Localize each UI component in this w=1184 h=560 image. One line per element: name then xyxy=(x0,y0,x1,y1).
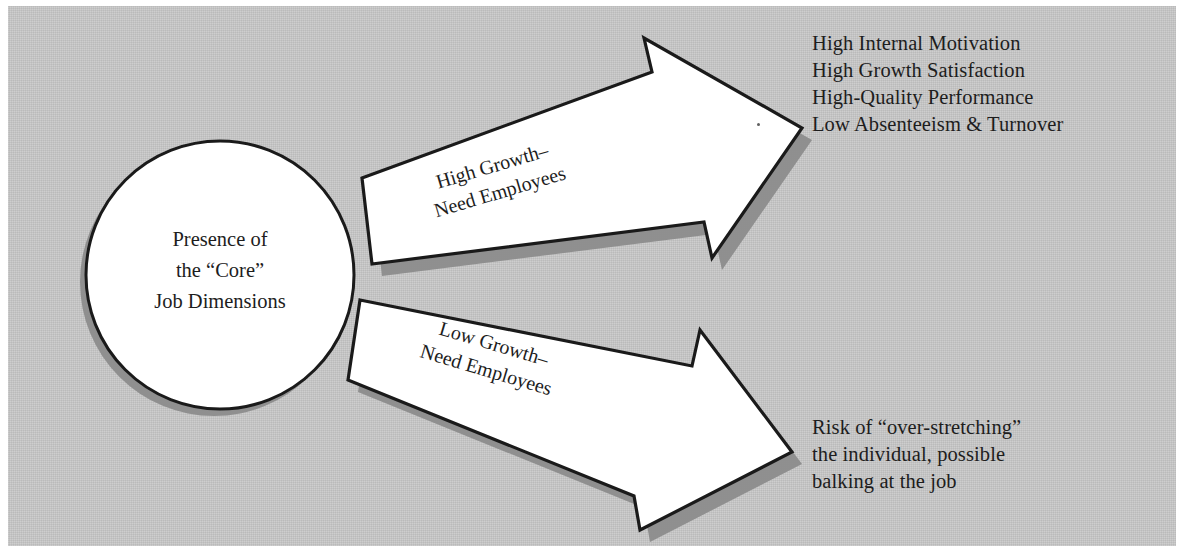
positive-outcomes-list: High Internal Motivation High Growth Sat… xyxy=(812,30,1063,138)
negative-outcome-item: Risk of “over-stretching” xyxy=(812,414,1021,441)
diagram-figure: Presence of the “Core” Job Dimensions Hi… xyxy=(0,0,1184,560)
positive-outcome-item: High Growth Satisfaction xyxy=(812,57,1063,84)
negative-outcome-item: balking at the job xyxy=(812,468,1021,495)
scan-speck xyxy=(757,123,760,126)
core-label-line-3: Job Dimensions xyxy=(96,286,344,317)
negative-outcomes-list: Risk of “over-stretching” the individual… xyxy=(812,414,1021,495)
core-dimensions-label: Presence of the “Core” Job Dimensions xyxy=(96,224,344,317)
core-label-line-2: the “Core” xyxy=(96,255,344,286)
negative-outcome-item: the individual, possible xyxy=(812,441,1021,468)
positive-outcome-item: High-Quality Performance xyxy=(812,84,1063,111)
positive-outcome-item: Low Absenteeism & Turnover xyxy=(812,111,1063,138)
core-label-line-1: Presence of xyxy=(96,224,344,255)
positive-outcome-item: High Internal Motivation xyxy=(812,30,1063,57)
